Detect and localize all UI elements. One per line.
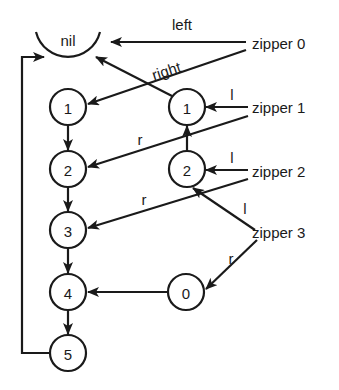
list-node-4-label: 4 xyxy=(64,285,72,302)
edge-5-to-nil xyxy=(22,57,50,353)
zipper-3-label: zipper 3 xyxy=(252,224,305,241)
zipper-diagram: nil left right l r l r l r 1 2 3 4 xyxy=(0,0,339,390)
edge-label-z1-r: r xyxy=(138,131,143,148)
reversed-node-0: 0 xyxy=(168,274,204,310)
edge-label-left: left xyxy=(172,16,193,33)
edge-label-right: right xyxy=(150,58,184,83)
reversed-node-0-label: 0 xyxy=(182,285,190,302)
edge-label-z2-r: r xyxy=(142,191,147,208)
edge-zipper1-r xyxy=(88,116,248,167)
edge-label-z2-l: l xyxy=(230,149,233,166)
list-node-2-label: 2 xyxy=(64,162,72,179)
edge-zipper2-r xyxy=(88,179,248,228)
reversed-node-2-label: 2 xyxy=(183,162,191,179)
zipper-1-label: zipper 1 xyxy=(252,99,305,116)
reversed-node-1: 1 xyxy=(169,89,205,125)
nil-label: nil xyxy=(60,32,75,49)
zipper-2-label: zipper 2 xyxy=(252,163,305,180)
list-node-2: 2 xyxy=(50,151,86,187)
list-node-4: 4 xyxy=(50,274,86,310)
edge-label-z1-l: l xyxy=(230,86,233,103)
reversed-node-2: 2 xyxy=(169,151,205,187)
edge-label-z3-r: r xyxy=(229,250,234,267)
list-node-1-label: 1 xyxy=(64,100,72,117)
zipper-0-label: zipper 0 xyxy=(252,35,305,52)
edge-label-z3-l: l xyxy=(243,200,246,217)
nil-node: nil xyxy=(36,32,100,57)
list-node-5: 5 xyxy=(50,335,86,371)
list-node-5-label: 5 xyxy=(64,346,72,363)
reversed-node-1-label: 1 xyxy=(183,100,191,117)
list-node-3-label: 3 xyxy=(64,223,72,240)
list-node-1: 1 xyxy=(50,89,86,125)
list-node-3: 3 xyxy=(50,212,86,248)
